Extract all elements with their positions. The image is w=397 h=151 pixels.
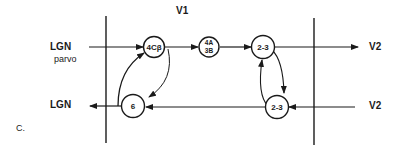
svg-text:2-3: 2-3 <box>257 43 269 52</box>
node-2-3-top: 2-3 <box>252 36 275 59</box>
lgn-input-label: LGN <box>50 42 71 52</box>
diagram-canvas: 4Cβ 4A 3B 2-3 6 2-3 <box>0 0 397 151</box>
v2-input-label: V2 <box>369 101 381 111</box>
lgn-output-label: LGN <box>50 100 71 110</box>
v1-region-label: V1 <box>176 6 188 16</box>
svg-text:4A: 4A <box>205 39 214 46</box>
svg-text:4Cβ: 4Cβ <box>146 43 161 52</box>
arrow-23top-to-23bot <box>272 50 284 93</box>
v2-output-label: V2 <box>369 42 381 52</box>
node-4a-3b: 4A 3B <box>199 37 219 57</box>
svg-text:2-3: 2-3 <box>271 103 283 112</box>
node-4cb: 4Cβ <box>144 37 165 58</box>
lgn-parvo-label: parvo <box>54 55 77 64</box>
panel-label: C. <box>16 124 25 133</box>
node-2-3-bottom: 2-3 <box>266 96 289 119</box>
svg-text:3B: 3B <box>205 47 214 54</box>
node-6: 6 <box>122 95 145 118</box>
v1-circuit-diagram: 4Cβ 4A 3B 2-3 6 2-3 V1 LGN parvo LGN V2 … <box>0 0 397 151</box>
svg-text:6: 6 <box>131 102 136 111</box>
arrow-23bot-to-23top <box>260 60 268 106</box>
